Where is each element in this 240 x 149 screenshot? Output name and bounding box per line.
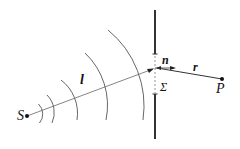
label-path-l: l — [80, 73, 84, 87]
normal-arrowhead — [170, 66, 176, 70]
ray-r — [157, 68, 222, 79]
label-distance-r: r — [193, 61, 198, 73]
label-aperture-sigma: Σ — [160, 81, 167, 93]
wavefront-2 — [47, 95, 54, 123]
diffraction-diagram: S P l n r Σ — [0, 0, 240, 149]
wavefront-4 — [85, 53, 108, 120]
label-normal-n: n — [162, 54, 169, 66]
wavefronts — [39, 30, 145, 123]
label-source: S — [17, 109, 24, 123]
ray-arrowhead — [147, 69, 154, 74]
wavefront-5 — [108, 30, 144, 120]
source-point — [25, 114, 29, 118]
ray-l — [27, 69, 153, 116]
wavefront-1 — [39, 104, 43, 123]
label-point: P — [216, 82, 225, 96]
diagram-canvas — [0, 0, 240, 149]
